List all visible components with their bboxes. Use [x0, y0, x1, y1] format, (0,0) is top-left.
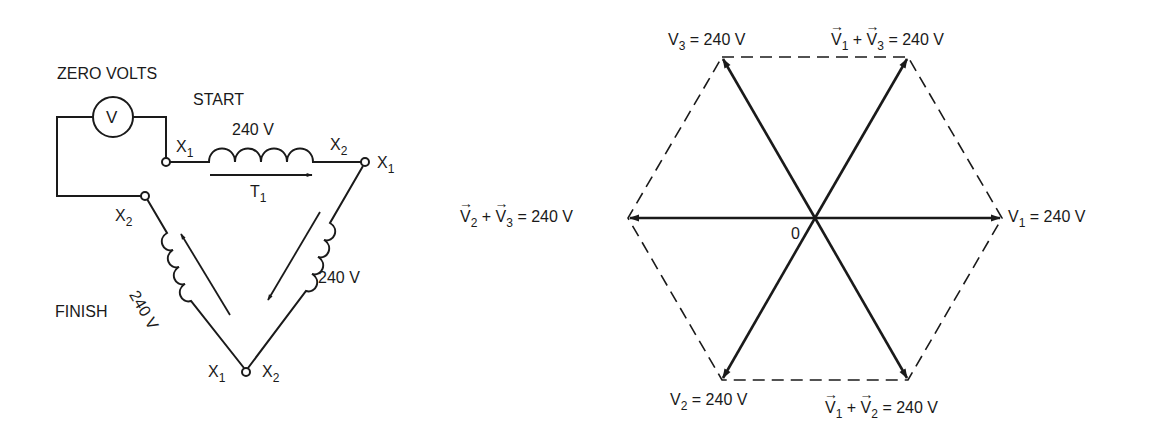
- terminal-label-x2-finish: X2: [115, 208, 132, 228]
- v3-label: V3 = 240 V: [668, 32, 745, 52]
- v2-plus-v3-label: V2 + V3 = 240 V: [460, 209, 573, 229]
- start-label: START: [193, 92, 244, 108]
- phasor-v2: [723, 218, 815, 378]
- origin-label: 0: [791, 226, 800, 242]
- terminal-bottom: [242, 368, 250, 376]
- voltmeter-lead-right: [133, 117, 166, 158]
- terminal-label-x2-bottom: X2: [262, 364, 279, 384]
- zero-volts-label: ZERO VOLTS: [57, 66, 157, 82]
- arrow-right-coil-icon: [268, 212, 320, 300]
- coil-top-voltage-label: 240 V: [232, 122, 274, 138]
- phasor-hexagon: [628, 57, 1002, 380]
- terminal-start: [162, 158, 170, 166]
- coil-left: [147, 199, 244, 368]
- finish-label: FINISH: [55, 304, 107, 320]
- terminal-label-x1-right: X1: [377, 155, 394, 175]
- v1-plus-v2-label: V1 + V2 = 240 V: [825, 400, 938, 420]
- terminal-label-x1-bottom: X1: [208, 364, 225, 384]
- phasor-v3: [723, 59, 815, 218]
- terminal-label-x1-start: X1: [176, 139, 193, 159]
- phasor-v1-plus-v3: [815, 59, 907, 218]
- v1-label: V1 = 240 V: [1008, 209, 1085, 229]
- delta-winding-diagram: [57, 97, 369, 376]
- diagram-canvas: [0, 0, 1158, 447]
- v2-label: V2 = 240 V: [670, 392, 747, 412]
- arrow-left-coil-icon: [181, 234, 230, 315]
- terminal-finish: [141, 192, 149, 200]
- terminal-top-right: [361, 158, 369, 166]
- v1-plus-v3-label: V1 + V3 = 240 V: [831, 32, 944, 52]
- t1-label: T1: [250, 184, 266, 204]
- terminal-label-x2-top: X2: [330, 137, 347, 157]
- voltmeter-symbol: V: [106, 109, 117, 126]
- coil-right-voltage-label: 240 V: [318, 270, 360, 286]
- phasor-v1-plus-v2: [815, 218, 907, 378]
